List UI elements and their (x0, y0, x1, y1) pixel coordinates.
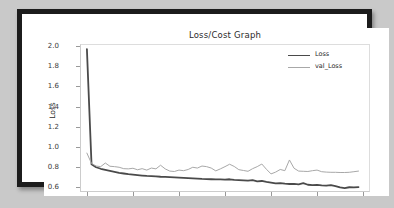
x-tick-mark (179, 192, 180, 196)
image-canvas: Loss/Cost Graph Loss Epochs 2.01.81.61.4… (0, 0, 394, 208)
series-line-val_loss (87, 153, 359, 174)
chart-legend: Lossval_Loss (288, 50, 366, 76)
legend-swatch (288, 55, 310, 56)
x-tick-mark (133, 192, 134, 196)
x-tick-mark (363, 192, 364, 196)
legend-item-val_loss: val_Loss (288, 62, 366, 73)
y-tick-label: 1.2 (44, 123, 59, 131)
photo-border: Loss/Cost Graph Loss Epochs 2.01.81.61.4… (17, 9, 372, 187)
y-tick-label: 1.4 (44, 103, 59, 111)
x-tick-mark (317, 192, 318, 196)
x-tick-mark (271, 192, 272, 196)
x-tick-mark (87, 192, 88, 196)
legend-label: Loss (315, 50, 329, 58)
legend-label: val_Loss (315, 62, 342, 70)
y-tick-label: 1.6 (44, 82, 59, 90)
y-tick-label: 2.0 (44, 42, 59, 50)
chart-figure: Loss/Cost Graph Loss Epochs 2.01.81.61.4… (44, 28, 389, 196)
x-tick-mark (225, 192, 226, 196)
y-tick-label: 0.8 (44, 163, 59, 171)
y-tick-label: 1.8 (44, 62, 59, 70)
y-tick-label: 1.0 (44, 143, 59, 151)
legend-item-loss: Loss (288, 50, 366, 61)
chart-title: Loss/Cost Graph (80, 30, 370, 40)
y-tick-label: 0.6 (44, 183, 59, 191)
legend-swatch (288, 67, 310, 68)
